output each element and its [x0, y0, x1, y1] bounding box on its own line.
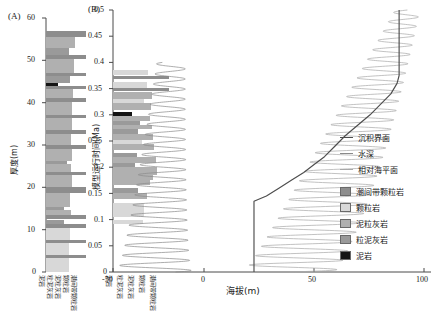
- legend-label: 泥粒灰岩: [356, 218, 388, 229]
- litho-bed: [46, 59, 74, 73]
- legend-item-water-depth: 水深: [340, 148, 435, 159]
- legend-label: 水深: [358, 148, 374, 159]
- legend-item-packstone: 泥粒灰岩: [340, 218, 435, 229]
- legend-swatch-group: 潮间带颗粒岩颗粒岩泥粒灰岩粒泥灰岩泥岩: [340, 186, 435, 261]
- legend-swatch-icon: [340, 203, 351, 212]
- panel-a-ytick-60: 60: [27, 13, 35, 22]
- litho-bed: [46, 37, 75, 48]
- litho-bed: [46, 243, 69, 255]
- panel-b-bottom-labels: 泥岩粒泥灰岩泥粒灰岩颗粒岩潮间带颗粒岩: [113, 275, 175, 333]
- legend-item-grainstone: 颗粒岩: [340, 202, 435, 213]
- litho-bed: [46, 102, 72, 115]
- litho-bed: [46, 193, 70, 207]
- facies-axis-label: 潮间带颗粒岩: [70, 275, 79, 311]
- facies-axis-label: 颗粒岩: [138, 275, 147, 293]
- facies-axis-label: 泥粒灰岩: [127, 275, 136, 299]
- legend-label: 相对海平面: [358, 164, 398, 175]
- legend-label: 潮间带颗粒岩: [356, 186, 404, 197]
- litho-bed: [46, 134, 71, 145]
- legend-item-wackestone: 粒泥灰岩: [340, 234, 435, 245]
- litho-bed: [46, 89, 73, 98]
- legend-line-group: 沉积界面水深相对海平面: [340, 132, 435, 175]
- curve: [120, 62, 191, 272]
- panel-a: (A) 厚度(m) 0 10 20 30 40 50 60: [0, 0, 92, 333]
- legend-item-intertidal-grainstone: 潮间带颗粒岩: [340, 186, 435, 197]
- legend-item-mudstone: 泥岩: [340, 250, 435, 261]
- legend-swatch-icon: [340, 219, 351, 228]
- legend-line-icon: [340, 137, 353, 138]
- legend-swatch-icon: [340, 187, 351, 196]
- legend-line-icon: [340, 169, 353, 170]
- panel-a-lithology-column: [46, 18, 88, 272]
- litho-bed: [46, 258, 69, 272]
- legend-item-sedimentary-interface: 沉积界面: [340, 132, 435, 143]
- litho-bed: [46, 175, 72, 187]
- facies-axis-label: 粒泥灰岩: [116, 275, 125, 299]
- legend-label: 粒泥灰岩: [356, 234, 388, 245]
- legend-swatch-icon: [340, 235, 351, 244]
- panel-a-ytick-20: 20: [27, 182, 35, 191]
- facies-axis-label: 泥岩: [105, 275, 114, 287]
- legend: 沉积界面水深相对海平面 潮间带颗粒岩颗粒岩泥粒灰岩粒泥灰岩泥岩: [340, 132, 435, 266]
- legend-label: 沉积界面: [358, 132, 390, 143]
- legend-label: 颗粒岩: [356, 202, 380, 213]
- litho-bed: [46, 76, 70, 83]
- litho-bed: [46, 228, 70, 240]
- panel-a-ytick-40: 40: [27, 98, 35, 107]
- litho-bed: [46, 164, 71, 172]
- legend-label: 泥岩: [356, 250, 372, 261]
- panel-a-ytick-50: 50: [27, 55, 35, 64]
- legend-swatch-icon: [340, 251, 351, 260]
- litho-bed: [46, 118, 72, 130]
- litho-bed: [46, 149, 72, 161]
- figure-root: (A) 厚度(m) 0 10 20 30 40 50 60: [0, 0, 435, 333]
- legend-item-relative-sea-level: 相对海平面: [340, 164, 435, 175]
- panel-a-ytick-30: 30: [27, 140, 35, 149]
- panel-a-ytick-10: 10: [27, 225, 35, 234]
- legend-line-icon: [340, 153, 353, 154]
- panel-a-ytick-0: 0: [32, 267, 36, 276]
- litho-bed: [46, 48, 69, 56]
- facies-axis-label: 潮间带颗粒岩: [149, 275, 158, 311]
